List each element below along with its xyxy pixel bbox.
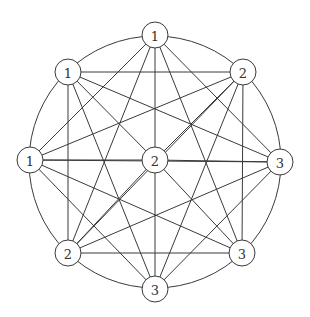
node-label: 1 [26,154,34,169]
node-H: 3 [229,240,255,266]
edge-F-I [155,162,280,289]
edge-F-G [68,162,280,253]
edge-B-E [68,72,155,160]
edge-E-H [155,160,242,253]
node-label: 3 [276,156,284,171]
edge-B-F [68,72,280,162]
node-label: 2 [151,154,159,169]
node-F: 3 [267,149,293,175]
node-E: 2 [142,147,168,173]
node-B: 1 [55,59,81,85]
node-G: 2 [55,240,81,266]
node-C: 2 [230,59,256,85]
graph-diagram: 112123233 [0,0,310,317]
node-label: 2 [64,247,72,262]
node-label: 1 [64,66,72,81]
edge-A-G [68,35,155,253]
edge-C-H [242,72,243,253]
node-I: 3 [142,276,168,302]
node-A: 1 [142,22,168,48]
node-label: 3 [151,283,159,298]
edge-E-G [68,160,155,253]
node-D: 1 [17,147,43,173]
node-label: 2 [239,66,247,81]
edge-C-D [30,72,243,160]
node-label: 1 [151,29,159,44]
node-label: 3 [238,247,246,262]
